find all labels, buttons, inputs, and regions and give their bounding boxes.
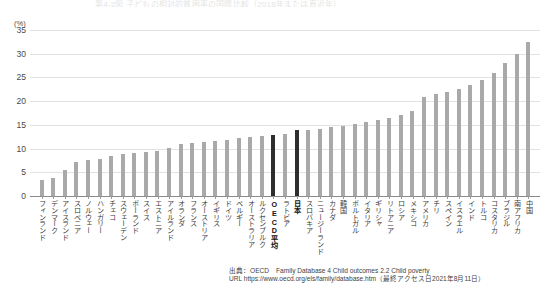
x-tick	[134, 196, 135, 199]
bar-slot	[291, 30, 303, 196]
x-tick	[378, 196, 379, 199]
x-tick	[146, 196, 147, 199]
bar	[109, 156, 113, 196]
x-tick	[505, 196, 506, 199]
x-label-20: OECD平均	[269, 200, 278, 249]
bar	[526, 42, 530, 196]
bar	[248, 137, 252, 196]
bar	[422, 97, 426, 196]
bar-slot	[175, 30, 187, 196]
x-tick	[100, 196, 101, 199]
x-tick	[285, 196, 286, 199]
x-label-22: 日本	[292, 200, 301, 214]
x-label-12: オランダ	[176, 200, 185, 227]
y-tick-label-10: 10	[2, 145, 26, 153]
bar	[468, 85, 472, 196]
x-tick	[88, 196, 89, 199]
bar	[179, 144, 183, 196]
chart-title-clipped: 第4-2図 子どもの相対的貧困率の国際比較（2018年または直近年）	[95, 0, 385, 7]
x-label-4: ノルウェー	[83, 200, 92, 234]
bar	[503, 63, 507, 196]
x-label-10: エストニア	[153, 200, 162, 234]
bar	[492, 73, 496, 196]
bar-slot	[523, 30, 535, 196]
bar-slot	[314, 30, 326, 196]
x-label-2: アイスランド	[60, 200, 69, 241]
bar-slot	[465, 30, 477, 196]
bar	[283, 134, 287, 196]
bar	[63, 170, 67, 196]
x-tick	[239, 196, 240, 199]
x-label-42: 中国	[524, 200, 533, 214]
bar-slot	[407, 30, 419, 196]
x-tick	[401, 196, 402, 199]
bar-slot	[476, 30, 488, 196]
x-label-6: チェコ	[107, 200, 116, 220]
x-label-13: フランス	[188, 200, 197, 227]
bar-slot	[499, 30, 511, 196]
bar	[457, 89, 461, 196]
bar-slot	[453, 30, 465, 196]
bar	[167, 148, 171, 196]
x-label-31: ロシア	[396, 200, 405, 220]
bar	[364, 122, 368, 196]
x-label-0: フィンランド	[37, 200, 46, 241]
plot-area	[30, 30, 540, 196]
bar	[480, 80, 484, 196]
y-tick-label-0: 0	[2, 192, 26, 200]
x-label-8: ポーランド	[130, 200, 139, 234]
x-label-19: ルクセンブルク	[257, 200, 266, 248]
x-label-5: ハンガリー	[95, 200, 104, 234]
x-tick	[366, 196, 367, 199]
bar-slot	[71, 30, 83, 196]
bar-slot	[140, 30, 152, 196]
source-line-1: 出典：OECD Family Database 4 Child outcomes…	[229, 267, 541, 275]
bar	[51, 178, 55, 196]
x-tick	[447, 196, 448, 199]
bar-slot	[198, 30, 210, 196]
bar-slot	[279, 30, 291, 196]
x-tick	[343, 196, 344, 199]
bar-slot	[372, 30, 384, 196]
bar	[144, 152, 148, 196]
x-tick	[389, 196, 390, 199]
bar-slot	[105, 30, 117, 196]
bar	[237, 138, 241, 196]
bar-slot	[326, 30, 338, 196]
bar	[132, 153, 136, 196]
x-label-17: ベルギー	[234, 200, 243, 227]
x-label-28: イタリア	[362, 200, 371, 227]
bar-slot	[360, 30, 372, 196]
x-label-1: デンマーク	[49, 200, 58, 234]
x-tick	[297, 196, 298, 199]
x-label-18: オーストラリア	[246, 200, 255, 248]
x-label-38: トルコ	[478, 200, 487, 220]
y-tick-label-30: 30	[2, 50, 26, 58]
bar	[190, 143, 194, 196]
bar-slot	[94, 30, 106, 196]
bar	[329, 127, 333, 196]
x-label-15: イギリス	[211, 200, 220, 227]
bar-slot	[302, 30, 314, 196]
bar-slot	[488, 30, 500, 196]
x-label-37: インド	[466, 200, 475, 220]
bar-slot	[47, 30, 59, 196]
bar	[445, 92, 449, 196]
x-tick	[123, 196, 124, 199]
bar	[515, 54, 519, 196]
x-axis-category-labels: フィンランドデンマークアイスランドスロベニアノルウェーハンガリーチェコスウェーデ…	[30, 200, 540, 262]
bar-slot	[82, 30, 94, 196]
x-label-39: コスタリカ	[489, 200, 498, 234]
x-label-21: ラトビア	[281, 200, 290, 227]
bar	[410, 111, 414, 196]
bar-slot	[268, 30, 280, 196]
x-label-24: ニュージーランド	[315, 200, 324, 254]
y-tick-label-5: 5	[2, 168, 26, 176]
y-tick-label-35: 35	[2, 26, 26, 34]
bar	[306, 130, 310, 196]
bar	[98, 159, 102, 196]
x-tick	[65, 196, 66, 199]
x-tick	[470, 196, 471, 199]
x-label-41: 南アフリカ	[512, 200, 521, 234]
source-line-2: URL https://www.oecd.org/els/family/data…	[229, 275, 541, 283]
